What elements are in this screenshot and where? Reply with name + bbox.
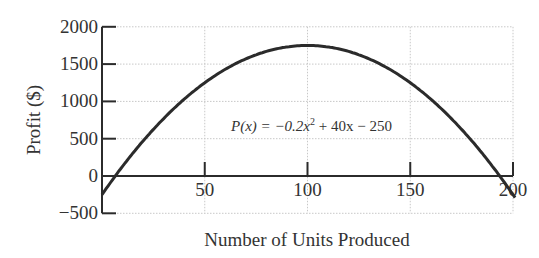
y-axis-title: Profit ($) [23, 85, 45, 155]
equation-annotation: P(x) = −0.2x2 + 40x − 250 [230, 116, 392, 135]
y-tick-label: 0 [89, 165, 99, 186]
x-tick-label: 150 [396, 179, 425, 200]
y-tick-label: 1000 [60, 90, 98, 111]
y-tick-label: 500 [70, 128, 99, 149]
y-tick-label: −500 [59, 202, 98, 223]
y-tick-label: 1500 [60, 53, 98, 74]
x-tick-label: 100 [293, 179, 322, 200]
profit-chart: −500050010001500200050100150200 P(x) = −… [0, 0, 539, 258]
x-tick-label: 50 [195, 179, 214, 200]
y-tick-label: 2000 [60, 16, 98, 37]
x-axis-title: Number of Units Produced [204, 229, 410, 250]
